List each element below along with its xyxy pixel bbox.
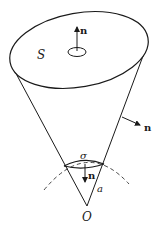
sigma-cap-bottom — [64, 164, 104, 168]
surface-s-ellipse — [4, 1, 155, 98]
radius-label: a — [97, 183, 103, 194]
surface-label: S — [37, 48, 45, 62]
normal-side-arrow — [122, 117, 140, 125]
normal-top-label: n — [80, 25, 88, 36]
sphere-arc-dashed — [44, 162, 129, 190]
normal-side-label: n — [144, 122, 152, 133]
solid-angle-diagram: n S n σ n a O — [0, 0, 159, 228]
normal-sigma-label: n — [88, 170, 96, 181]
origin-label: O — [82, 210, 92, 224]
sigma-label: σ — [80, 150, 88, 161]
